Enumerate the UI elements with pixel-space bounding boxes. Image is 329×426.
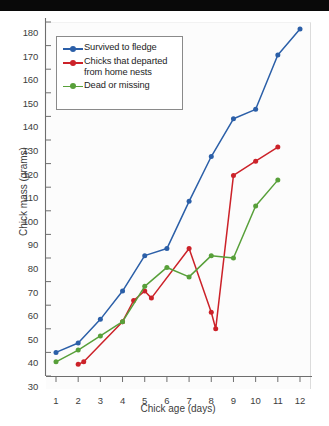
- legend-item-departed: Chicks that departedfrom home nests: [62, 56, 178, 79]
- y-tick-label: 80: [8, 263, 38, 274]
- y-tick-label: 110: [8, 192, 38, 203]
- x-tick-label: 2: [69, 395, 87, 406]
- x-tick-label: 12: [291, 395, 309, 406]
- legend-label-dead: Dead or missing: [84, 80, 150, 91]
- chart-legend: Survived to fledge Chicks that departedf…: [56, 36, 183, 110]
- legend-item-survived: Survived to fledge: [62, 42, 178, 55]
- y-tick-label: 90: [8, 239, 38, 250]
- legend-item-dead: Dead or missing: [62, 80, 178, 93]
- x-tick-label: 7: [180, 395, 198, 406]
- y-tick-label: 30: [8, 381, 38, 392]
- legend-label-departed: Chicks that departedfrom home nests: [84, 56, 167, 79]
- y-tick-label: 100: [8, 216, 38, 227]
- y-tick-label: 70: [8, 287, 38, 298]
- x-tick-label: 11: [269, 395, 287, 406]
- y-tick-label: 170: [8, 51, 38, 62]
- legend-marker-blue: [62, 43, 84, 55]
- y-tick-label: 40: [8, 357, 38, 368]
- x-tick-label: 8: [202, 395, 220, 406]
- y-tick-label: 150: [8, 98, 38, 109]
- x-tick-label: 6: [158, 395, 176, 406]
- x-tick-label: 4: [114, 395, 132, 406]
- y-tick-label: 130: [8, 145, 38, 156]
- x-tick-label: 5: [136, 395, 154, 406]
- x-tick-label: 9: [224, 395, 242, 406]
- x-tick-label: 10: [247, 395, 265, 406]
- y-tick-label: 160: [8, 74, 38, 85]
- y-tick-label: 180: [8, 27, 38, 38]
- y-tick-label: 60: [8, 310, 38, 321]
- legend-label-survived: Survived to fledge: [84, 42, 157, 53]
- x-tick-label: 1: [47, 395, 65, 406]
- legend-marker-red: [62, 57, 84, 69]
- x-tick-label: 3: [91, 395, 109, 406]
- y-tick-label: 50: [8, 334, 38, 345]
- y-tick-label: 120: [8, 169, 38, 180]
- legend-marker-green: [62, 81, 84, 93]
- y-tick-label: 140: [8, 121, 38, 132]
